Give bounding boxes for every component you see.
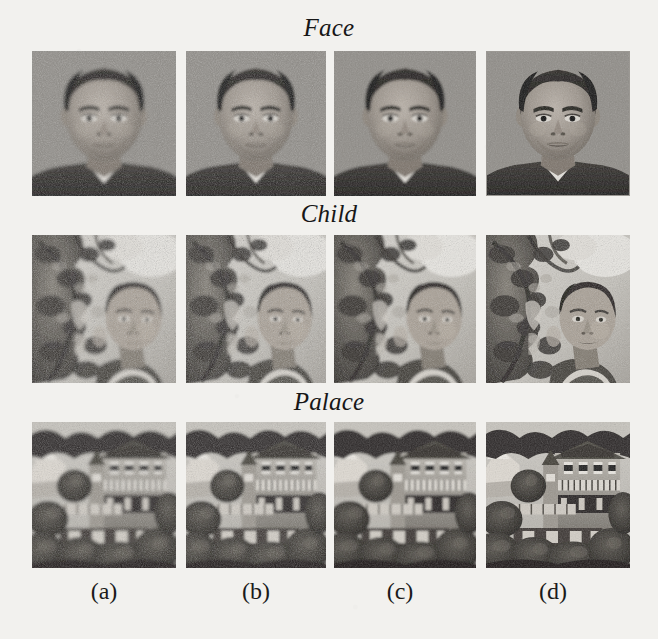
cell-face-a	[32, 51, 176, 196]
column-label-c: (c)	[360, 578, 440, 605]
cell-face-b	[186, 51, 326, 196]
cell-face-d	[486, 51, 630, 196]
figure-panel: Face Child	[0, 0, 658, 639]
column-label-b: (b)	[216, 578, 296, 605]
cell-child-c	[334, 235, 476, 383]
image-palace-a	[32, 422, 176, 568]
cell-palace-b	[186, 422, 326, 568]
image-palace-b	[186, 422, 326, 568]
image-child-a	[32, 235, 176, 383]
cell-palace-a	[32, 422, 176, 568]
image-child-c	[334, 235, 476, 383]
column-label-a: (a)	[64, 578, 144, 605]
column-label-d: (d)	[513, 578, 593, 605]
row-title-face: Face	[0, 14, 658, 42]
image-face-d	[487, 52, 629, 195]
image-face-b	[186, 51, 326, 196]
image-face-c	[334, 51, 476, 196]
row-title-palace: Palace	[0, 388, 658, 416]
image-child-b	[186, 235, 326, 383]
image-palace-d	[486, 422, 630, 568]
cell-face-c	[334, 51, 476, 196]
row-title-child: Child	[0, 200, 658, 228]
image-face-a	[32, 51, 176, 196]
image-palace-c	[334, 422, 476, 568]
cell-child-a	[32, 235, 176, 383]
cell-child-b	[186, 235, 326, 383]
cell-palace-c	[334, 422, 476, 568]
image-child-d	[486, 235, 630, 383]
cell-palace-d	[486, 422, 630, 568]
cell-child-d	[486, 235, 630, 383]
